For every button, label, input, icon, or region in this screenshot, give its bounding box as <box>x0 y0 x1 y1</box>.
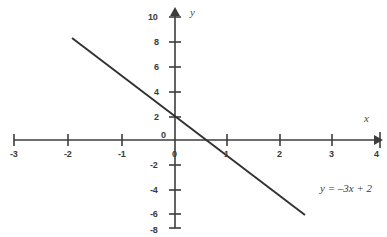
x-axis-name: x <box>364 113 369 124</box>
y-tick-label--4: -4 <box>150 186 158 195</box>
y-origin-label: 0 <box>161 131 166 140</box>
y-axis-name: y <box>190 7 195 18</box>
y-tick-label--6: -6 <box>150 210 158 219</box>
y-tick-label-8: 8 <box>154 38 159 47</box>
function-line <box>72 38 305 215</box>
x-axis-arrow-icon <box>374 135 383 145</box>
y-axis-arrow-icon <box>170 7 180 16</box>
y-tick-label-10: 10 <box>148 13 158 22</box>
x-tick-label--1: -1 <box>118 150 126 159</box>
x-tick-label-4: 4 <box>374 150 379 159</box>
x-tick-label--2: -2 <box>64 150 72 159</box>
y-tick-label-2: 2 <box>154 113 159 122</box>
y-tick-label-6: 6 <box>154 63 159 72</box>
y-tick-label--8: -8 <box>150 226 158 235</box>
x-tick-label-0: 0 <box>172 150 177 159</box>
x-tick-label--3: -3 <box>10 150 18 159</box>
equation-annotation: y = –3x + 2 <box>320 183 372 194</box>
graph-canvas <box>0 0 387 237</box>
linear-function-graph: -3 -2 -1 0 1 2 3 4 10 8 6 4 2 0 -2 -4 -6… <box>0 0 387 237</box>
x-tick-label-2: 2 <box>277 150 282 159</box>
x-tick-label-1: 1 <box>224 150 229 159</box>
y-tick-label-4: 4 <box>154 88 159 97</box>
y-tick-label--2: -2 <box>150 161 158 170</box>
x-tick-label-3: 3 <box>329 150 334 159</box>
